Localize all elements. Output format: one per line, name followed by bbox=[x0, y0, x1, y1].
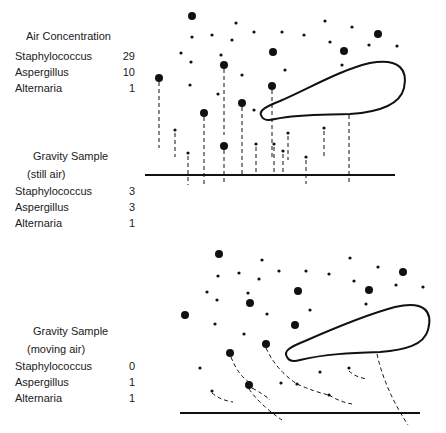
moving-air-illustration bbox=[0, 220, 446, 433]
plume-shape bbox=[286, 305, 429, 361]
particles bbox=[155, 12, 399, 159]
still-air-illustration bbox=[0, 0, 446, 200]
table-row: Aspergillus 3 bbox=[15, 201, 135, 215]
particles bbox=[181, 250, 425, 397]
organism-name: Aspergillus bbox=[15, 201, 69, 213]
organism-count: 3 bbox=[129, 201, 135, 213]
fall-trajectories bbox=[159, 69, 349, 185]
plume-shape bbox=[261, 62, 405, 120]
